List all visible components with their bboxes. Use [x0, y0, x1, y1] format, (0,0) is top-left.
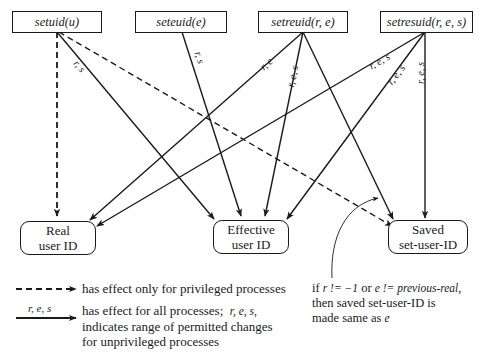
node-real-line2: user ID — [39, 238, 78, 253]
edge-seteuid-effective — [182, 32, 241, 216]
legend-solid-text: has effect for all processes; r, e, s, i… — [82, 303, 273, 349]
node-saved-line2: set-user-ID — [399, 237, 457, 252]
legend-dashed-text: has effect only for privileged processes — [82, 281, 286, 296]
node-real-line1: Real — [46, 223, 70, 238]
node-seteuid: seteuid(e) — [135, 11, 227, 33]
edge-label-setresuid-saved: r, e, s — [415, 62, 426, 84]
edge-setuid-saved — [59, 32, 392, 226]
edge-setresuid-effective — [287, 32, 425, 219]
node-setresuid-label: setresuid(r, e, s) — [387, 15, 466, 30]
node-saved-set-user-id: Saved set-user-ID — [388, 220, 468, 254]
node-setuid: setuid(u) — [12, 11, 102, 33]
legend-solid-arrow-label: r, e, s — [28, 302, 51, 314]
node-setreuid: setreuid(r, e) — [258, 11, 348, 33]
note-pointer-arrow — [332, 198, 378, 278]
node-effective-line2: user ID — [232, 237, 271, 252]
node-setresuid: setresuid(r, e, s) — [380, 11, 473, 33]
node-setuid-label: setuid(u) — [35, 15, 79, 30]
node-setreuid-label: setreuid(r, e) — [271, 15, 334, 30]
node-real-user-id: Real user ID — [20, 221, 96, 255]
node-effective-line1: Effective — [227, 222, 274, 237]
node-effective-user-id: Effective user ID — [213, 220, 289, 254]
saved-id-note: if r != −1 or e != previous-real, then s… — [312, 281, 461, 326]
node-seteuid-label: seteuid(e) — [156, 15, 205, 30]
node-saved-line1: Saved — [412, 222, 444, 237]
